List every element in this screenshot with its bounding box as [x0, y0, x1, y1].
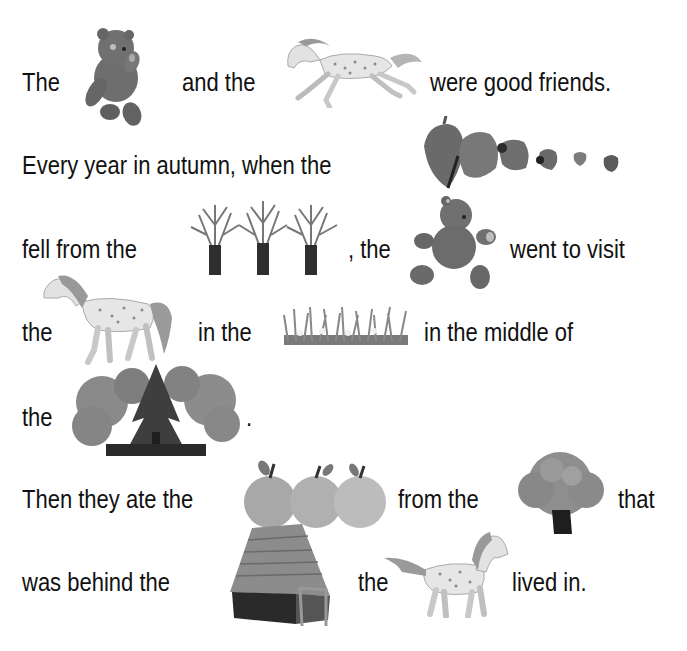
story-text: from the — [398, 485, 479, 513]
story-text: The — [22, 68, 60, 96]
story-text: that — [618, 485, 655, 513]
story-text: Every year in autumn, when the — [22, 151, 331, 179]
story-text: went to visit — [510, 235, 625, 263]
forest-icon — [72, 362, 240, 457]
spotted-horse-standing-icon — [380, 530, 512, 618]
bare-trees-icon — [185, 195, 343, 275]
meadow-grass-icon — [282, 305, 410, 347]
story-text: and the — [182, 68, 255, 96]
story-text: was behind the — [22, 568, 170, 596]
teddy-bear-running-icon — [404, 195, 502, 290]
story-text: in the middle of — [424, 318, 573, 346]
apple-tree-icon — [512, 450, 610, 536]
wooden-house-icon — [222, 522, 352, 627]
spotted-horse-walking-icon — [38, 268, 184, 368]
teddy-bear-sitting-icon — [80, 18, 142, 138]
apples-icon — [242, 460, 390, 530]
story-text: . — [246, 403, 252, 431]
spotted-horse-galloping-icon — [280, 28, 425, 108]
story-text: in the — [198, 318, 252, 346]
story-text: were good friends. — [430, 68, 611, 96]
story-text: , the — [348, 235, 391, 263]
story-text: Then they ate the — [22, 485, 193, 513]
story-text: lived in. — [512, 568, 587, 596]
falling-leaves-icon — [418, 116, 643, 192]
story-text: the — [22, 403, 53, 431]
story-text: fell from the — [22, 235, 137, 263]
